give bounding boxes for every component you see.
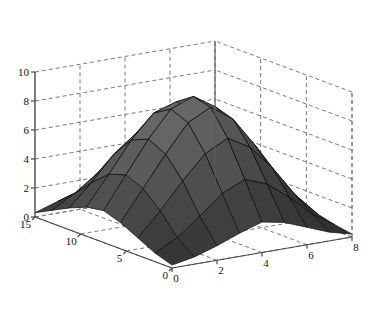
x-tick-8: 8 [353,241,359,253]
plot-canvas[interactable]: 024681005101502468 [0,0,375,315]
y-tick-15: 15 [20,218,32,230]
y-tick-10: 10 [66,235,78,247]
y-tick-5: 5 [117,252,123,264]
x-tick-6: 6 [308,249,314,261]
x-tick-2: 2 [218,264,224,276]
x-tick-4: 4 [263,257,269,269]
x-tick-0: 0 [173,272,179,284]
surface-plot-figure: 024681005101502468 [0,0,375,315]
z-tick-10: 10 [18,66,30,78]
z-tick-8: 8 [24,95,30,107]
z-tick-4: 4 [24,153,30,165]
y-tick-0: 0 [163,269,169,281]
z-tick-2: 2 [24,182,30,194]
z-tick-6: 6 [24,124,30,136]
